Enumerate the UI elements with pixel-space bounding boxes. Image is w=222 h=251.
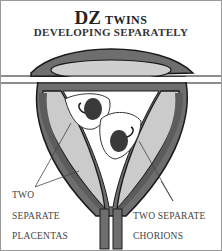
label-chorions-line1: TWO SEPARATE: [133, 212, 206, 222]
cervix-left: [100, 209, 109, 249]
label-placentas-line3: PLACENTAS: [12, 232, 68, 242]
label-placentas-line1: TWO: [12, 191, 34, 201]
label-chorions-line2: CHORIONS: [133, 232, 183, 242]
label-placentas-line2: SEPARATE: [12, 212, 60, 222]
diagram-frame: DZ TWINS DEVELOPING SEPARATELY: [0, 0, 222, 251]
cervix-right: [113, 209, 122, 249]
